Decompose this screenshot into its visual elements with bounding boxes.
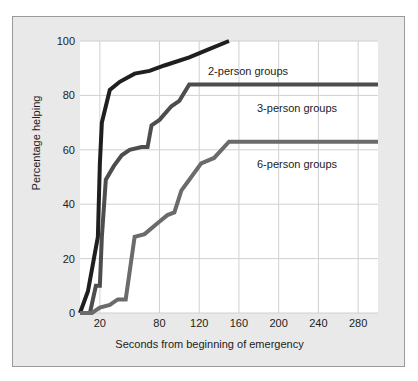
y-tick-label: 100 [57,35,75,47]
x-tick-label: 200 [269,317,287,329]
series-label-2-person: 2-person groups [208,65,288,77]
series-label-3-person: 3-person groups [257,102,337,114]
x-tick-label: 280 [349,317,367,329]
x-tick-label: 80 [153,317,165,329]
y-tick-label: 60 [63,144,75,156]
y-tick-label: 20 [63,253,75,265]
x-tick-label: 20 [94,317,106,329]
x-tick-label: 120 [190,317,208,329]
x-tick-label: 160 [230,317,248,329]
y-axis-title: Percentage helping [30,73,42,213]
y-tick-label: 80 [63,89,75,101]
x-axis-ticks: 2080120160200240280 [80,317,378,333]
x-axis-title: Seconds from beginning of emergency [13,338,406,350]
x-tick-label: 240 [309,317,327,329]
chart-card: 020406080100 2080120160200240280 Percent… [12,16,405,367]
plot-area [80,41,378,313]
series-lines [80,41,378,313]
y-tick-label: 40 [63,198,75,210]
y-tick-label: 0 [69,307,75,319]
series-line [80,85,378,313]
series-label-6-person: 6-person groups [257,158,337,170]
y-axis-ticks: 020406080100 [39,41,75,313]
